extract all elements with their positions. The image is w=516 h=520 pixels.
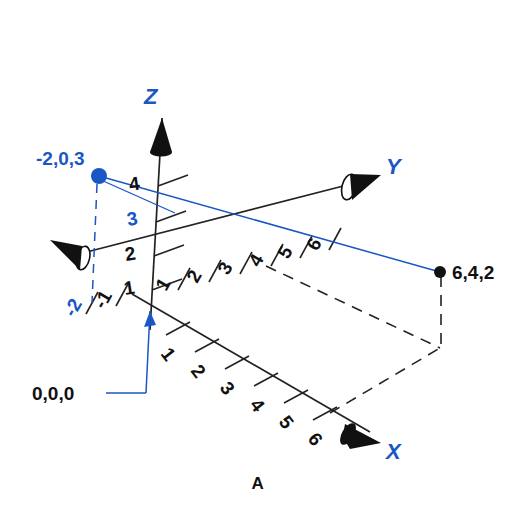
- y-tick-label-neg2: -2: [59, 295, 86, 320]
- z-tick-3: [156, 211, 186, 222]
- x-tick-6: [313, 407, 337, 420]
- x-tick-3: [225, 356, 249, 369]
- x-tick-label-3: 3: [216, 378, 239, 399]
- origin-label-part-3: ,0: [58, 383, 74, 404]
- figure-caption: A: [0, 474, 516, 494]
- y-axis-letter: Y: [386, 154, 403, 179]
- blue-data-point: [91, 168, 107, 184]
- y-tick-label-5: 5: [273, 242, 297, 262]
- x-tick-5: [284, 390, 308, 403]
- z-tick-4: [158, 175, 188, 186]
- projection-line-y-to-corner: [266, 266, 440, 348]
- y-tick-label-3: 3: [213, 258, 236, 278]
- z-tick-2: [154, 245, 184, 256]
- x-tick-2: [195, 339, 219, 352]
- y-tick-label-neg1: -1: [89, 286, 116, 312]
- black-point-label: 6,4,2: [452, 262, 494, 283]
- y-tick-label-2: 2: [182, 266, 205, 286]
- blue-drop-line: [92, 184, 97, 303]
- y-tick-label-1: 1: [151, 274, 175, 294]
- y-tick-label-4: 4: [244, 250, 268, 270]
- x-tick-label-5: 5: [275, 412, 298, 434]
- origin-label-part-1: 0,: [32, 383, 48, 404]
- x-tick-label-2: 2: [187, 361, 210, 382]
- x-axis-letter: X: [384, 439, 402, 464]
- projection-line-x-to-corner: [330, 348, 440, 413]
- x-tick-4: [254, 373, 278, 386]
- z-tick-label-3: 3: [125, 208, 139, 230]
- x-tick-label-1: 1: [157, 344, 180, 366]
- black-data-point: [434, 266, 446, 278]
- z-tick-label-2: 2: [123, 243, 137, 265]
- blue-point-label: -2,0,3: [36, 148, 85, 169]
- z-axis-letter: Z: [143, 84, 159, 109]
- z-axis-arrowhead-icon: [150, 118, 172, 157]
- tick-marks: [86, 175, 341, 420]
- origin-label: 0,0,0: [32, 383, 74, 404]
- z-tick-label-4: 4: [127, 172, 141, 194]
- projection-lines: [266, 266, 441, 413]
- origin-callout-arrow: [106, 311, 156, 393]
- x-tick-1: [166, 322, 190, 335]
- coordinate-system-figure: 4 3 2 1 1 2 3 4 5 6 -1 -2 1 2 3 4 5 6 Z …: [0, 0, 516, 520]
- y-negative-axis-arrowhead-icon: [50, 240, 92, 271]
- blue-connector-line: [99, 176, 440, 272]
- x-tick-label-6: 6: [304, 429, 327, 450]
- y-tick-6: [329, 228, 341, 250]
- y-axis-arrowhead-icon: [339, 173, 381, 202]
- z-tick-label-1: 1: [122, 276, 136, 298]
- origin-label-part-2: 0: [48, 383, 59, 404]
- x-tick-label-4: 4: [246, 395, 269, 417]
